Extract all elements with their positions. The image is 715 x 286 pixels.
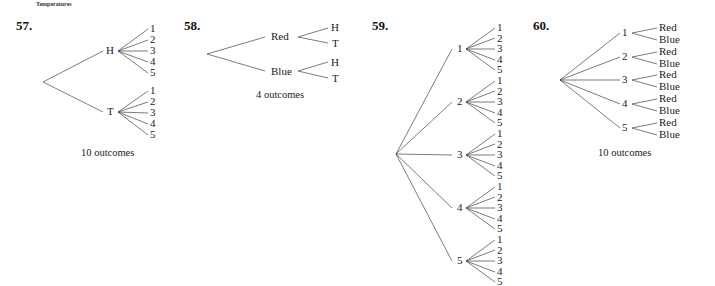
tree58-leaf: H — [331, 57, 339, 68]
tree57-leaf: 5 — [150, 129, 156, 140]
tree58-node-blue: Blue — [271, 66, 292, 77]
tree60-node: 2 — [622, 51, 628, 62]
tree58-leaf: T — [332, 38, 339, 49]
tree58-leaf: T — [332, 73, 339, 84]
tree59-node: 5 — [457, 255, 463, 266]
tree57-node-t: T — [107, 106, 114, 117]
problem-59-number: 59. — [372, 18, 388, 34]
tree59-node: 2 — [457, 96, 463, 107]
tree60-leaf: Red — [659, 69, 677, 80]
tree60-leaf: Blue — [659, 105, 680, 116]
tree59-leaf: 5 — [497, 276, 503, 286]
tree59-node: 1 — [457, 43, 463, 54]
tree58-leaf: H — [331, 22, 339, 33]
tree60-leaf: Blue — [659, 34, 680, 45]
tree58-outcomes: 4 outcomes — [256, 89, 304, 100]
tree60-outcomes: 10 outcomes — [598, 147, 651, 158]
tree60-node: 4 — [622, 98, 628, 109]
tree59-node: 3 — [457, 149, 463, 160]
tree59-node: 4 — [457, 202, 463, 213]
tree60-leaf: Red — [659, 117, 677, 128]
tree57-outcomes: 10 outcomes — [81, 147, 134, 158]
tree60-leaf: Red — [659, 46, 677, 57]
tree60-node: 5 — [622, 122, 628, 133]
tree60-leaf: Blue — [659, 81, 680, 92]
tree60-leaf: Blue — [659, 129, 680, 140]
problem-60-number: 60. — [533, 18, 549, 34]
tree-lines — [0, 0, 715, 286]
problem-57-number: 57. — [16, 18, 32, 34]
problem-58-number: 58. — [184, 18, 200, 34]
tree58-node-red: Red — [271, 31, 289, 42]
tree60-node: 3 — [622, 74, 628, 85]
tree60-leaf: Red — [659, 22, 677, 33]
tree60-leaf: Red — [659, 93, 677, 104]
tree57-node-h: H — [106, 45, 114, 56]
tree60-node: 1 — [622, 27, 628, 38]
tree57-leaf: 5 — [150, 67, 156, 78]
